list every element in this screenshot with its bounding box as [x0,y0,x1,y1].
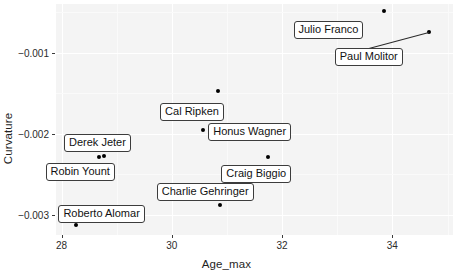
data-point[interactable] [201,128,205,132]
point-label[interactable]: Julio Franco [294,21,364,39]
point-label[interactable]: Derek Jeter [64,134,131,152]
x-axis-tick-label: 30 [166,240,177,251]
data-point[interactable] [382,9,386,13]
x-axis-tick-label: 28 [56,240,67,251]
data-point[interactable] [74,223,78,227]
x-axis-tick-mark [62,235,63,238]
x-axis-tick-mark [172,235,173,238]
y-axis-tick-label: −0.003 [18,209,49,220]
label-leader-line [369,32,429,49]
y-axis-tick-label: −0.001 [18,47,49,58]
x-axis-tick-label: 32 [277,240,288,251]
data-point[interactable] [266,155,270,159]
gridline-vertical-minor [117,4,118,235]
gridline-vertical [62,4,63,235]
gridline-vertical-minor [448,4,449,235]
x-axis-tick-mark [392,235,393,238]
point-label[interactable]: Robin Yount [46,163,115,181]
plot-panel [56,4,453,235]
gridline-vertical [392,4,393,235]
x-axis-title: Age_max [0,258,453,270]
y-axis-tick-mark [52,53,55,54]
data-point[interactable] [216,89,220,93]
point-label[interactable]: Paul Molitor [335,48,403,66]
gridline-horizontal-minor [56,93,453,94]
point-label[interactable]: Charlie Gehringer [157,183,254,201]
point-label[interactable]: Honus Wagner [208,123,291,141]
y-axis-tick-mark [52,134,55,135]
y-axis-tick-label: −0.002 [18,128,49,139]
point-label[interactable]: Cal Ripken [160,103,224,121]
point-label[interactable]: Craig Biggio [221,165,291,183]
x-axis-tick-mark [282,235,283,238]
data-point[interactable] [218,203,222,207]
y-axis-title: Curvature [0,0,16,277]
data-point[interactable] [97,155,101,159]
gridline-horizontal-minor [56,12,453,13]
data-point[interactable] [102,154,106,158]
x-axis-tick-label: 34 [387,240,398,251]
gridline-vertical [282,4,283,235]
point-label[interactable]: Roberto Alomar [58,205,144,223]
y-axis-tick-mark [52,215,55,216]
scatter-plot-figure: Curvature Age_max 28303234 −0.001−0.002−… [0,0,453,277]
